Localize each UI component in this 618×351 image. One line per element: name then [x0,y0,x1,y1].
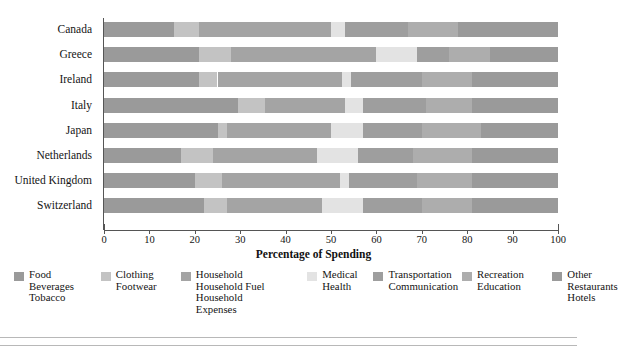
legend-label-line: Communication [388,281,458,293]
bar-segment [422,72,472,87]
legend-swatch [552,272,562,281]
legend-label-line: Expenses [196,304,265,316]
x-axis-tick-label: 80 [462,234,473,246]
bar-segment [449,47,490,62]
bar-segment [238,98,265,113]
legend-label-line: Footwear [116,281,157,293]
footer-rule-top [0,337,577,338]
bar-segment [417,47,449,62]
x-axis-tick-label: 50 [326,234,337,246]
legend-swatch [101,272,111,281]
bar-segment [331,22,345,37]
bar-segment [408,22,458,37]
legend-label-line: Health [322,281,357,293]
x-axis-tick-label: 0 [101,234,106,246]
bar-segment [213,148,317,163]
x-axis-tick-label: 70 [417,234,428,246]
bar-row [104,198,558,213]
bar-segment [181,148,213,163]
bar-segment [340,173,349,188]
bar-segment [317,148,358,163]
y-axis-label: Italy [71,99,92,111]
bar-segment [490,47,558,62]
y-axis-label: Ireland [59,73,92,85]
bar-segment [104,22,174,37]
bar-segment [345,22,409,37]
x-axis-title: Percentage of Spending [0,248,577,260]
bar-row [104,123,558,138]
bar-segment [265,98,344,113]
bar-segment [199,72,217,87]
x-axis-tick-label: 60 [371,234,382,246]
bar-segment [231,47,376,62]
bar-segment [472,173,558,188]
x-axis-tick-label: 30 [235,234,246,246]
x-axis-tick-label: 40 [280,234,291,246]
x-axis-tick-label: 90 [507,234,518,246]
bar-segment [363,198,422,213]
bar-segment [472,198,558,213]
bar-segment [199,47,231,62]
legend-label-line: Hotels [567,292,617,304]
bar-segment [422,123,481,138]
legend-swatch [307,272,317,281]
bar-segment [227,123,331,138]
legend-label-line: Clothing [116,269,157,281]
legend-label-line: Recreation [477,269,524,281]
bar-segment [174,22,199,37]
bar-row [104,22,558,37]
bar-segment [363,98,427,113]
bar-series-container [104,18,558,230]
bar-segment [104,47,199,62]
bar-segment [417,173,471,188]
bar-segment [199,22,331,37]
legend-swatch [462,272,472,281]
bar-row [104,173,558,188]
legend-label-line: Food [29,269,74,281]
bar-segment [104,123,218,138]
y-axis-label: Switzerland [37,199,92,211]
bar-segment [472,148,558,163]
x-axis-tick-label: 10 [144,234,155,246]
legend-label-line: Transportation [388,269,458,281]
bar-segment [472,98,558,113]
y-axis-label: Canada [58,23,92,35]
bar-segment [376,47,417,62]
legend-label: ClothingFootwear [116,269,157,292]
legend-label: HouseholdHousehold FuelHouseholdExpenses [196,269,265,315]
y-axis-label: Japan [66,124,92,136]
bar-segment [204,198,227,213]
bar-row [104,72,558,87]
y-axis-labels: CanadaGreeceIrelandItalyJapanNetherlands… [0,18,98,218]
bar-row [104,47,558,62]
legend-label-line: Household [196,269,265,281]
bar-segment [104,198,204,213]
bar-segment [227,198,322,213]
x-axis-tick-label: 100 [550,234,566,246]
bar-segment [331,123,363,138]
bar-segment [358,148,412,163]
legend-swatch [373,272,383,281]
bar-segment [104,148,181,163]
bar-row [104,148,558,163]
bar-segment [351,72,421,87]
bar-segment [349,173,417,188]
legend-label: OtherRestaurantsHotels [567,269,617,304]
bar-row [104,98,558,113]
legend-label-line: Education [477,281,524,293]
y-axis-label: Greece [59,48,92,60]
bar-segment [481,123,558,138]
y-axis-label: United Kingdom [14,174,92,186]
legend-label-line: Medical [322,269,357,281]
legend-label: FoodBeveragesTobacco [29,269,74,304]
bar-segment [363,123,422,138]
bar-segment [104,72,199,87]
bar-segment [345,98,363,113]
bar-segment [413,148,472,163]
x-axis-title-text: Percentage of Spending [256,248,371,260]
bar-segment [472,72,558,87]
bar-segment [104,98,238,113]
legend-label-line: Tobacco [29,292,74,304]
bar-segment [342,72,351,87]
